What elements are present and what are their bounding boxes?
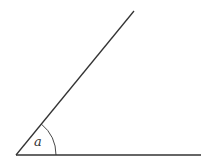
angle-diagram (0, 0, 213, 164)
angle-arc (41, 124, 56, 155)
angle-label: a (34, 135, 42, 148)
